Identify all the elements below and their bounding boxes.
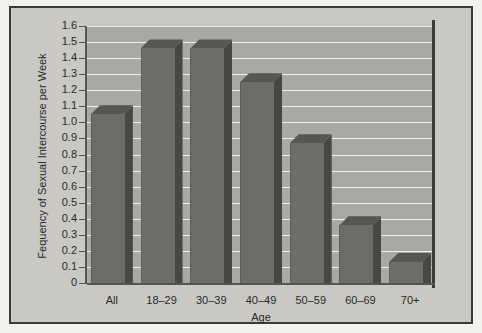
y-axis-tick-label: 1.6: [17, 20, 77, 31]
bar-front-face: [141, 48, 175, 283]
y-axis-tick: [79, 90, 86, 91]
bar-front-face: [290, 143, 324, 283]
y-axis-tick: [79, 26, 86, 27]
y-axis-tick: [79, 283, 86, 284]
y-axis-tick: [79, 267, 86, 268]
y-axis-tick: [79, 138, 86, 139]
x-axis-tick-label: 70+: [375, 294, 445, 306]
bar: [389, 26, 422, 283]
y-axis-tick: [79, 235, 86, 236]
bar-front-face: [190, 48, 224, 283]
bar: [190, 26, 223, 283]
bar-front-face: [389, 262, 423, 283]
bar-front-face: [240, 82, 274, 283]
bar-front-face: [339, 225, 373, 283]
chart-figure: 1.61.51.41.31.21.11.00.90.80.70.60.50.40…: [0, 0, 482, 333]
y-axis-tick: [79, 42, 86, 43]
y-axis-tick: [79, 203, 86, 204]
bar-side-face: [323, 134, 332, 283]
chart-frame: 1.61.51.41.31.21.11.00.90.80.70.60.50.40…: [9, 6, 473, 324]
plot-right-wall: [432, 20, 435, 288]
y-axis-tick: [79, 219, 86, 220]
y-axis-tick: [79, 155, 86, 156]
bar-front-face: [91, 114, 125, 283]
x-axis-line: [87, 283, 435, 285]
y-axis-tick: [79, 74, 86, 75]
bar: [91, 26, 124, 283]
plot-area: [87, 26, 435, 283]
y-axis-title: Fequency of Sexual Intercourse per Week: [36, 31, 48, 281]
bar-side-face: [124, 105, 133, 283]
bar: [141, 26, 174, 283]
bar: [339, 26, 372, 283]
y-axis-tick: [79, 171, 86, 172]
y-axis-tick: [79, 187, 86, 188]
bar-side-face: [223, 39, 232, 283]
y-axis-tick: [79, 122, 86, 123]
bar-side-face: [372, 216, 381, 283]
y-axis-tick: [79, 106, 86, 107]
bar: [290, 26, 323, 283]
x-axis-title: Age: [87, 311, 435, 323]
bar-side-face: [174, 39, 183, 283]
bar: [240, 26, 273, 283]
y-axis-tick: [79, 58, 86, 59]
bar-side-face: [273, 73, 282, 283]
y-axis-tick: [79, 251, 86, 252]
